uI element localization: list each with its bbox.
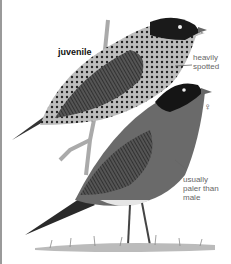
annotation-line: male — [183, 193, 219, 202]
juvenile-label: juvenile — [58, 47, 92, 57]
female-symbol-label: ♀ — [204, 102, 212, 111]
robins-illustration — [0, 0, 231, 264]
grass — [35, 235, 215, 252]
annotation-paler-than-male: usually paler than male — [183, 175, 219, 202]
annotation-heavily-spotted: heavily spotted — [193, 53, 219, 71]
annotation-line: usually — [183, 175, 219, 184]
annotation-line: heavily — [193, 53, 219, 62]
annotation-line: paler than — [183, 184, 219, 193]
annotation-line: spotted — [193, 62, 219, 71]
